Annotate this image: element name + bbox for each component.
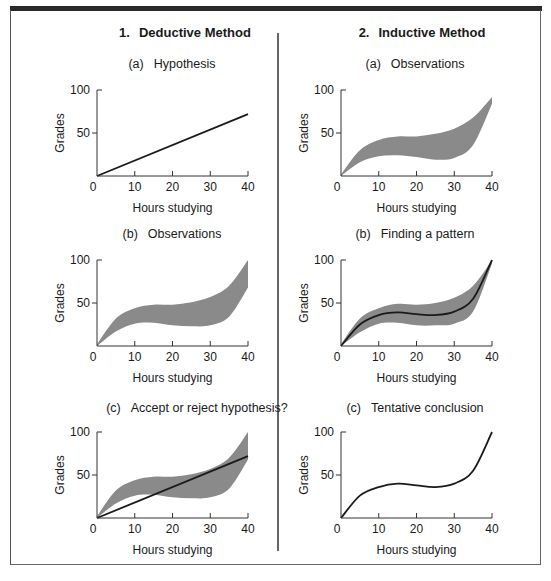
data-band <box>341 97 492 176</box>
x-tick-label: 0 <box>90 522 97 536</box>
x-axis-label: Hours studying <box>132 371 212 385</box>
x-axis-label: Hours studying <box>132 543 212 557</box>
x-tick-label: 40 <box>485 350 499 364</box>
x-tick-label: 20 <box>166 180 180 194</box>
x-tick-label: 0 <box>334 180 341 194</box>
x-tick-label: 0 <box>334 522 341 536</box>
column-title-text: Inductive Method <box>378 25 485 40</box>
panel-tag: (b) <box>355 227 370 241</box>
column-title-inductive: 2.Inductive Method <box>297 25 547 40</box>
panel-title-deductive-a: (a)Hypothesis <box>47 57 297 71</box>
x-axis-label: Hours studying <box>376 201 456 215</box>
x-tick-label: 40 <box>485 180 499 194</box>
x-tick-label: 30 <box>204 350 218 364</box>
y-axis-label: Grades <box>53 455 67 494</box>
y-tick-label: 100 <box>70 253 90 267</box>
panel-title-inductive-a: (a)Observations <box>290 57 540 71</box>
panel-title-text: Observations <box>148 227 222 241</box>
y-tick-label: 100 <box>70 425 90 439</box>
x-tick-label: 30 <box>204 180 218 194</box>
panel-title-text: Finding a pattern <box>381 227 475 241</box>
data-line <box>341 260 492 346</box>
x-tick-label: 40 <box>241 180 255 194</box>
column-title-deductive: 1.Deductive Method <box>60 25 310 40</box>
x-tick-label: 20 <box>410 522 424 536</box>
chart-inductive-c: 01020304050100Hours studyingGrades <box>296 420 504 563</box>
x-tick-label: 40 <box>241 350 255 364</box>
column-number: 2. <box>359 25 370 40</box>
panel-tag: (c) <box>106 401 121 415</box>
column-divider <box>277 33 279 551</box>
y-tick-label: 100 <box>314 83 334 97</box>
x-tick-label: 10 <box>372 180 386 194</box>
data-band <box>97 432 248 518</box>
y-tick-label: 50 <box>321 296 335 310</box>
x-axis-label: Hours studying <box>132 201 212 215</box>
x-tick-label: 0 <box>334 350 341 364</box>
x-tick-label: 30 <box>204 522 218 536</box>
x-tick-label: 40 <box>241 522 255 536</box>
data-line <box>341 432 492 518</box>
panel-title-inductive-b: (b)Finding a pattern <box>290 227 540 241</box>
y-axis-label: Grades <box>297 455 311 494</box>
x-tick-label: 10 <box>128 350 142 364</box>
y-tick-label: 50 <box>77 296 91 310</box>
panel-title-text: Hypothesis <box>154 57 216 71</box>
x-tick-label: 20 <box>166 522 180 536</box>
data-band <box>97 260 248 346</box>
y-axis-label: Grades <box>297 283 311 322</box>
y-tick-label: 50 <box>77 468 91 482</box>
x-tick-label: 10 <box>128 522 142 536</box>
y-axis-label: Grades <box>297 113 311 152</box>
x-axis-label: Hours studying <box>376 371 456 385</box>
panel-tag: (b) <box>123 227 138 241</box>
y-tick-label: 100 <box>70 83 90 97</box>
y-tick-label: 50 <box>321 468 335 482</box>
y-tick-label: 100 <box>314 253 334 267</box>
chart-deductive-a: 01020304050100Hours studyingGrades <box>52 78 260 221</box>
y-axis-label: Grades <box>53 283 67 322</box>
x-axis-label: Hours studying <box>376 543 456 557</box>
x-tick-label: 20 <box>166 350 180 364</box>
panel-title-deductive-b: (b)Observations <box>47 227 297 241</box>
x-tick-label: 0 <box>90 180 97 194</box>
x-tick-label: 30 <box>448 180 462 194</box>
x-tick-label: 10 <box>372 522 386 536</box>
x-tick-label: 40 <box>485 522 499 536</box>
panel-tag: (a) <box>128 57 143 71</box>
chart-inductive-a: 01020304050100Hours studyingGrades <box>296 78 504 221</box>
panel-tag: (a) <box>366 57 381 71</box>
panel-title-deductive-c: (c)Accept or reject hypothesis? <box>72 401 322 415</box>
data-line <box>97 114 248 176</box>
column-number: 1. <box>119 25 130 40</box>
axes <box>92 90 248 176</box>
x-tick-label: 20 <box>410 350 424 364</box>
x-tick-label: 10 <box>372 350 386 364</box>
panel-title-text: Observations <box>391 57 465 71</box>
column-title-text: Deductive Method <box>139 25 251 40</box>
panel-title-text: Tentative conclusion <box>371 401 484 415</box>
panel-tag: (c) <box>346 401 361 415</box>
x-tick-label: 30 <box>448 522 462 536</box>
y-tick-label: 50 <box>321 126 335 140</box>
y-tick-label: 50 <box>77 126 91 140</box>
y-tick-label: 100 <box>314 425 334 439</box>
chart-deductive-b: 01020304050100Hours studyingGrades <box>52 248 260 391</box>
x-tick-label: 20 <box>410 180 424 194</box>
chart-deductive-c: 01020304050100Hours studyingGrades <box>52 420 260 563</box>
panel-title-text: Accept or reject hypothesis? <box>131 401 288 415</box>
x-tick-label: 30 <box>448 350 462 364</box>
x-tick-label: 0 <box>90 350 97 364</box>
y-axis-label: Grades <box>53 113 67 152</box>
x-tick-label: 10 <box>128 180 142 194</box>
panel-title-inductive-c: (c)Tentative conclusion <box>290 401 540 415</box>
chart-inductive-b: 01020304050100Hours studyingGrades <box>296 248 504 391</box>
